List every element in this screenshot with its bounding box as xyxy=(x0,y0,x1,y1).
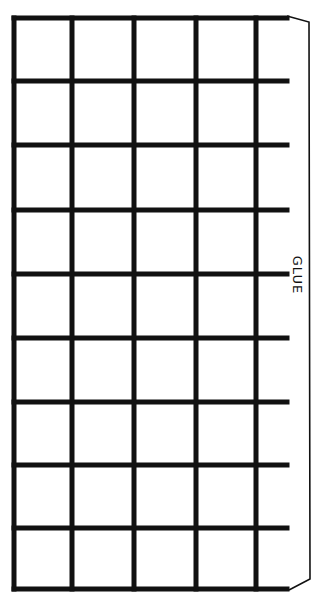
grid-lines xyxy=(14,18,287,589)
grid-template xyxy=(0,0,321,600)
glue-flap xyxy=(287,16,310,590)
glue-flap-label: GLUE xyxy=(290,256,305,294)
